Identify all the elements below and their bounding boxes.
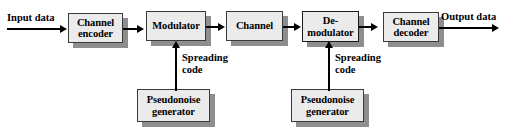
block-channel-decoder[interactable]: Channel decoder	[383, 12, 439, 42]
block-diagram-canvas: Input data Channel encoder Modulator Cha…	[0, 0, 505, 138]
pn-rx-to-demodulator-arrow	[325, 41, 333, 48]
output-arrow-line	[439, 27, 493, 29]
block-channel[interactable]: Channel	[226, 11, 283, 41]
spreading-code-rx-label: Spreading code	[335, 52, 381, 75]
input-arrow-head	[60, 25, 67, 33]
encoder-to-modulator-line	[123, 28, 138, 30]
pn-rx-to-demodulator-line	[328, 47, 330, 91]
block-demodulator[interactable]: De- modulator	[302, 11, 359, 42]
input-data-label: Input data	[7, 12, 55, 24]
output-data-label: Output data	[441, 11, 496, 23]
block-channel-encoder[interactable]: Channel encoder	[68, 13, 123, 43]
input-arrow-line	[7, 28, 61, 30]
encoder-to-modulator-arrow	[137, 25, 144, 33]
block-pn-generator-rx[interactable]: Pseudonoise generator	[291, 89, 364, 122]
demodulator-to-decoder-arrow	[371, 23, 378, 31]
channel-to-demodulator-arrow	[294, 23, 301, 31]
spreading-code-tx-label: Spreading code	[182, 52, 228, 75]
output-arrow-head	[492, 24, 499, 32]
pn-tx-to-modulator-arrow	[172, 41, 180, 48]
modulator-to-channel-arrow	[218, 23, 225, 31]
pn-tx-to-modulator-line	[175, 47, 177, 91]
block-modulator[interactable]: Modulator	[146, 11, 206, 41]
block-pn-generator-tx[interactable]: Pseudonoise generator	[137, 89, 210, 122]
